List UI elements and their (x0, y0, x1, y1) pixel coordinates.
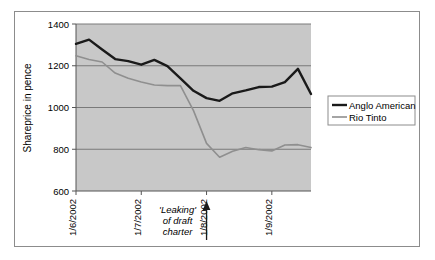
x-tick-label: 1/7/2002 (132, 199, 143, 236)
shareprice-line-chart: 600800100012001400 1/6/20021/7/20021/8/2… (15, 12, 419, 246)
y-tick-label: 1200 (48, 60, 69, 71)
annotation-line-2: of draft (163, 215, 193, 226)
y-tick-label: 1000 (48, 102, 69, 113)
annotation-line-3: charter (163, 226, 193, 237)
chart-legend: Anglo American Rio Tinto (328, 96, 416, 125)
y-tick-label: 600 (53, 186, 69, 197)
chart-figure: 600800100012001400 1/6/20021/7/20021/8/2… (14, 11, 420, 247)
y-tick-label: 800 (53, 144, 69, 155)
y-tick-group (72, 24, 76, 191)
x-tick-group (76, 191, 272, 195)
x-tick-label: 1/6/2002 (67, 199, 78, 236)
legend-label-anglo-american: Anglo American (349, 100, 416, 111)
y-tick-labels: 600800100012001400 (48, 19, 69, 197)
legend-label-rio-tinto: Rio Tinto (349, 112, 387, 123)
y-axis-title: Shareprice in pence (22, 63, 33, 152)
x-tick-label: 1/9/2002 (263, 199, 274, 236)
y-tick-label: 1400 (48, 19, 69, 30)
annotation-line-1: 'Leaking' (159, 204, 197, 215)
